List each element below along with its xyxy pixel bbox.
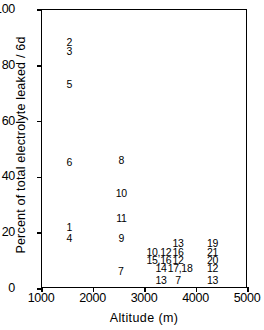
y-axis-tick-label: 20 — [0, 226, 15, 239]
x-axis-tick-label: 2000 — [70, 292, 116, 305]
y-axis-tick — [37, 65, 42, 67]
y-axis-tick — [37, 121, 42, 123]
data-point-label: 11 — [116, 213, 126, 224]
data-point-label: 4 — [67, 233, 73, 244]
x-axis-tick-label: 1000 — [18, 292, 64, 305]
data-point-label: 13 — [207, 274, 218, 285]
x-axis-tick-label: 4000 — [173, 292, 219, 305]
data-point-label: 3 — [67, 46, 73, 57]
y-axis-tick — [37, 177, 42, 179]
y-axis-tick-label: 60 — [0, 115, 15, 128]
data-point-label: 10 — [116, 188, 127, 199]
data-point-label: 9 — [119, 233, 125, 244]
data-point-label: 12 — [207, 263, 218, 274]
y-axis-tick-label: 0 — [0, 282, 15, 295]
x-axis-tick-label: 5000 — [224, 292, 264, 305]
x-axis-tick-label: 3000 — [121, 292, 167, 305]
data-point-label: 6 — [67, 157, 73, 168]
data-point-label: 5 — [67, 79, 73, 90]
y-axis-tick-label: 40 — [0, 170, 15, 183]
scatter-plot-figure: 02040608010010002000300040005000 2356148… — [0, 0, 264, 330]
data-point-label: 17,18 — [168, 263, 193, 274]
data-point-label: 7 — [175, 274, 181, 285]
data-point-label: 1 — [67, 221, 73, 232]
data-point-label: 13 — [155, 274, 166, 285]
data-point-label: 7 — [118, 266, 124, 277]
y-axis-tick-label: 100 — [0, 3, 15, 16]
y-axis-tick — [37, 232, 42, 234]
data-point-label: 14 — [155, 263, 166, 274]
data-point-label: 8 — [119, 154, 125, 165]
y-axis-title: Percent of total electrolyte leaked / 6d — [14, 20, 28, 270]
y-axis-tick-label: 80 — [0, 59, 15, 72]
y-axis-tick — [37, 9, 42, 11]
x-axis-title: Altitude (m) — [41, 311, 247, 325]
